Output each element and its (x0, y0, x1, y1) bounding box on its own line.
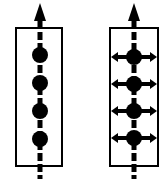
bead-2-marker (126, 76, 142, 92)
bead-1-marker (32, 47, 48, 63)
bead-4-marker (32, 131, 48, 147)
vertical-dashed-arrow-head (34, 3, 46, 21)
node-group-4 (111, 130, 157, 146)
bead-3-marker (126, 103, 142, 119)
physics-schematic-figure (0, 0, 166, 184)
arm-head-left (111, 52, 118, 62)
arm-head-left (111, 79, 118, 89)
node-group-1 (111, 49, 157, 65)
arm-head-right (150, 79, 157, 89)
vertical-dashed-arrow-head (128, 3, 140, 21)
arm-head-right (150, 52, 157, 62)
node-group-2 (111, 76, 157, 92)
left-diagram (16, 3, 62, 179)
figure-container: Two schematic diagrams of beads on a ver… (0, 0, 166, 184)
node-group-3 (32, 103, 48, 119)
node-group-3 (111, 103, 157, 119)
right-diagram (110, 3, 158, 179)
arm-head-left (111, 106, 118, 116)
bead-2-marker (32, 75, 48, 91)
node-group-1 (32, 47, 48, 63)
bead-1-marker (126, 49, 142, 65)
bead-4-marker (126, 130, 142, 146)
arm-head-right (150, 106, 157, 116)
node-group-2 (32, 75, 48, 91)
bead-3-marker (32, 103, 48, 119)
node-group-4 (32, 131, 48, 147)
arm-head-left (111, 133, 118, 143)
arm-head-right (150, 133, 157, 143)
